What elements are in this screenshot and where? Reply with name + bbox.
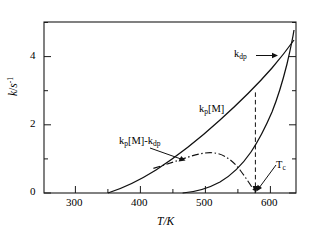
- annotation-tc-subscript: c: [282, 163, 285, 172]
- x-tick-label-500: 500: [196, 197, 213, 208]
- kdp-annotation-arrow: [256, 53, 278, 58]
- x-axis-title-text: T/K: [157, 215, 174, 227]
- annotation-kp-m: kp[M]: [199, 104, 224, 115]
- x-tick-label-400: 400: [131, 197, 148, 208]
- y-axis-title-k: k: [7, 91, 19, 96]
- axis-frame: [44, 22, 296, 193]
- y-axis-major-ticks: [44, 57, 296, 193]
- annotation-tc: Tc: [276, 160, 286, 171]
- x-axis-minor-ticks: [108, 189, 238, 193]
- x-tick-label-600: 600: [261, 197, 278, 208]
- y-tick-label-2: 2: [30, 118, 36, 129]
- annotation-kp-m-tail: [M]: [208, 103, 224, 114]
- annotation-diff-subscript2: dp: [153, 139, 161, 148]
- y-tick-label-4: 4: [30, 50, 36, 61]
- x-tick-label-300: 300: [66, 197, 83, 208]
- x-axis-title: T/K: [157, 216, 174, 228]
- y-axis-title-unit: s: [7, 83, 19, 87]
- y-tick-label-0: 0: [30, 186, 36, 197]
- annotation-kdp-subscript: dp: [239, 52, 247, 61]
- y-axis-title-exponent: -1: [6, 77, 15, 83]
- annotation-kp-m-minus-kdp: kp[M]-kdp: [119, 136, 161, 147]
- y-axis-title: k/s-1: [8, 77, 20, 96]
- annotation-diff-mid: [M]-k: [128, 135, 153, 146]
- y-axis-minor-ticks: [44, 23, 296, 159]
- tc-annotation-arrow: [256, 165, 276, 192]
- curve-kp-m: [108, 40, 294, 193]
- curve-kp-m-minus-kdp: [153, 153, 255, 193]
- chart-figure: k/s-1 4 2 0 300 400 500 600 T/K kdp kp[M…: [0, 0, 315, 244]
- annotation-kdp: kdp: [234, 49, 247, 60]
- diff-annotation-arrow: [150, 148, 186, 161]
- y-axis-title-slash: /: [7, 88, 19, 91]
- annotation-kp-m-subscript: p: [204, 107, 208, 116]
- annotation-diff-subscript1: p: [124, 139, 128, 148]
